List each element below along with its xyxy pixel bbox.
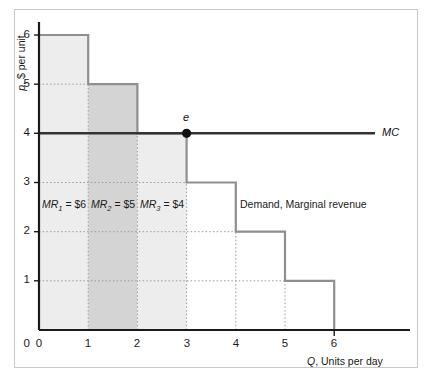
mr1-value: = $6 (63, 198, 87, 210)
ytick-label-2: 2 (16, 224, 30, 236)
y-axis-title-rest: , $ per unit (15, 35, 27, 85)
ytick-label-0: 0 (16, 337, 30, 349)
xtick-label-6: 6 (326, 337, 342, 349)
ytick-label-3: 3 (16, 175, 30, 187)
mr3-prefix: MR (140, 198, 156, 210)
ytick-label-1: 1 (16, 273, 30, 285)
y-axis-title: p, $ per unit (15, 23, 27, 103)
xtick-label-2: 2 (129, 337, 145, 349)
mr3-value: = $4 (161, 198, 185, 210)
xtick-label-3: 3 (179, 337, 195, 349)
mr2-annotation: MR2 = $5 (91, 198, 135, 213)
mc-curve-label: MC (382, 126, 399, 138)
mr2-value: = $5 (112, 198, 136, 210)
y-axis-title-symbol: p (15, 85, 27, 91)
equilibrium-point-e (182, 129, 191, 138)
mr1-annotation: MR1 = $6 (42, 198, 86, 213)
mr1-prefix: MR (42, 198, 58, 210)
ytick-label-4: 4 (16, 126, 30, 138)
equilibrium-point-label: e (183, 111, 189, 123)
xtick-label-5: 5 (277, 337, 293, 349)
xtick-label-0: 0 (31, 337, 47, 349)
chart-canvas (0, 0, 427, 382)
demand-curve-label: Demand, Marginal revenue (240, 198, 367, 210)
x-axis-title-rest: , Units per day (315, 355, 383, 367)
x-axis-title-symbol: Q (307, 355, 315, 367)
economics-step-demand-chart: 6 5 4 3 2 1 0 0 1 2 3 4 5 6 p, $ per uni… (0, 0, 427, 382)
x-axis-title: Q, Units per day (307, 355, 383, 367)
mr3-annotation: MR3 = $4 (140, 198, 184, 213)
xtick-label-4: 4 (228, 337, 244, 349)
mr2-prefix: MR (91, 198, 107, 210)
xtick-label-1: 1 (80, 337, 96, 349)
